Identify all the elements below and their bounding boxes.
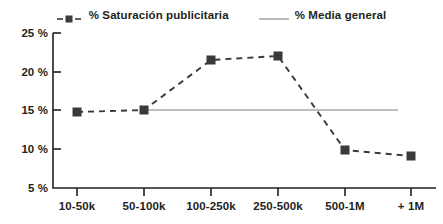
series-markers-saturacion <box>73 52 416 161</box>
data-point-marker <box>140 106 149 115</box>
data-point-marker <box>73 108 82 117</box>
data-point-marker <box>274 52 283 61</box>
data-point-marker <box>407 152 416 161</box>
data-point-marker <box>341 146 350 155</box>
x-tick-label-10-50k: 10-50k <box>59 200 95 212</box>
data-point-marker <box>207 56 216 65</box>
series-line-saturacion <box>77 56 411 156</box>
x-tick-label-500-1m: 500-1M <box>325 200 365 212</box>
chart-legend: % Saturación publicitaria % Media genera… <box>0 6 443 24</box>
legend-label-saturacion: % Saturación publicitaria <box>89 9 229 21</box>
y-axis-ticks <box>53 33 61 149</box>
plot-area <box>0 24 443 196</box>
chart-container: % Saturación publicitaria % Media genera… <box>0 0 443 224</box>
solid-line-icon <box>259 10 289 20</box>
dashed-line-square-marker-icon <box>57 10 83 20</box>
x-tick-label-100-250k: 100-250k <box>186 200 235 212</box>
x-tick-label-50-100k: 50-100k <box>123 200 166 212</box>
x-tick-label-250-500k: 250-500k <box>253 200 302 212</box>
legend-entry-saturacion[interactable]: % Saturación publicitaria <box>57 9 229 21</box>
x-axis-tick-labels: 10-50k 50-100k 100-250k 250-500k 500-1M … <box>0 196 443 220</box>
x-axis-ticks <box>77 188 411 196</box>
legend-entry-media-general[interactable]: % Media general <box>259 9 387 21</box>
x-tick-label-plus-1m: + 1M <box>398 200 424 212</box>
legend-label-media-general: % Media general <box>295 9 387 21</box>
